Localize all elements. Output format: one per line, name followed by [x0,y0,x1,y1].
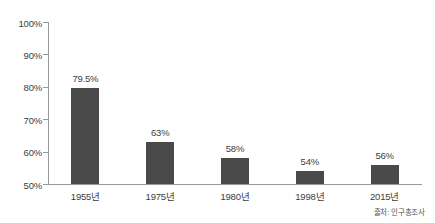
y-tick-label: 100% [19,17,43,28]
bar-group: 56% [350,22,420,184]
source-note: 출처: 인구총조사 [374,206,425,217]
y-tick-label: 80% [24,82,42,93]
bar [146,142,174,184]
bar-value-label: 56% [375,150,393,161]
bar-value-label: 63% [151,127,169,138]
bar-chart-figure: 100%90%80%70%60%50% 79.5%63%58%54%56% 19… [0,0,435,223]
bar [371,165,399,184]
x-axis-labels: 1955년1975년1980년1998년2015년 [48,189,422,205]
bar-value-label: 58% [226,143,244,154]
x-axis-label: 1998년 [275,189,345,203]
y-tick-label: 50% [24,179,42,190]
bar-group: 79.5% [50,22,120,184]
bar [296,171,324,184]
y-tick-label: 70% [24,114,42,125]
y-tick-label: 90% [24,49,42,60]
x-axis-label: 1980년 [200,189,270,203]
bar [221,158,249,184]
bar-value-label: 54% [301,156,319,167]
bars-layer: 79.5%63%58%54%56% [48,22,422,184]
y-tick: 50% [48,184,53,185]
y-tick-mark [43,184,48,185]
x-axis-label: 2015년 [350,189,420,203]
bar-group: 54% [275,22,345,184]
bar [71,88,99,184]
x-axis-label: 1955년 [50,189,120,203]
bar-value-label: 79.5% [72,73,98,84]
x-axis-label: 1975년 [125,189,195,203]
plot-area: 100%90%80%70%60%50% 79.5%63%58%54%56% [48,22,422,184]
y-tick-label: 60% [24,147,42,158]
bar-group: 58% [200,22,270,184]
bar-group: 63% [125,22,195,184]
x-axis-line [48,184,422,185]
